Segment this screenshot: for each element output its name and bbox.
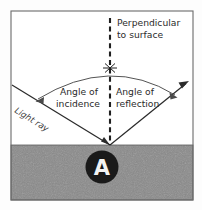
reflection-diagram-figure: Perpendicular to surface Angle of incide…: [0, 0, 202, 210]
point-a-badge-icon: A: [86, 151, 119, 184]
perpendicular-label-line2: to surface: [117, 29, 163, 40]
angle-of-incidence-label-line2: incidence: [56, 98, 100, 109]
angle-of-incidence-label-line1: Angle of: [60, 86, 99, 97]
angle-of-reflection-label-line2: reflection: [116, 98, 159, 109]
point-a-letter: A: [94, 156, 111, 180]
diagram-canvas: Perpendicular to surface Angle of incide…: [0, 0, 202, 210]
perpendicular-label-line1: Perpendicular: [117, 17, 180, 28]
angle-of-reflection-label-line1: Angle of: [116, 86, 155, 97]
